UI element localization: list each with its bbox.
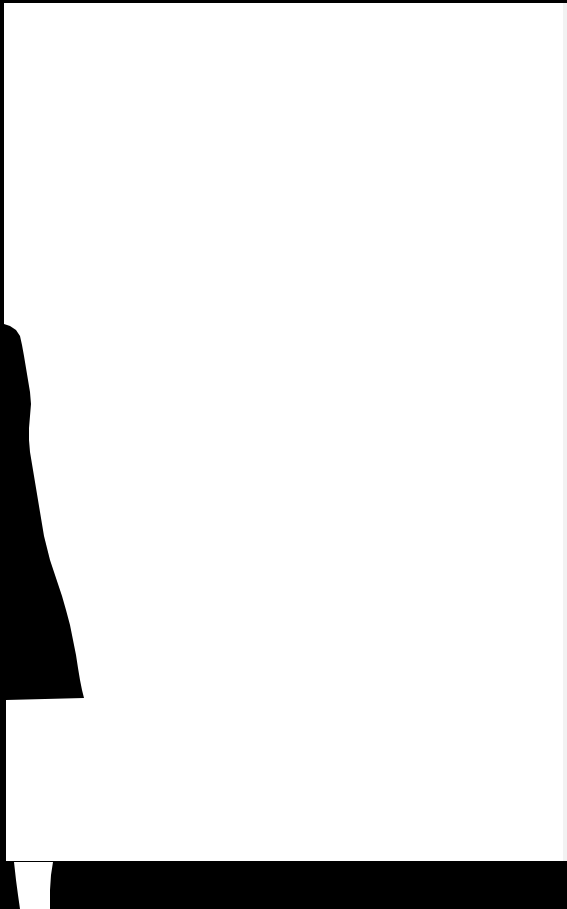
left-edge-strip: [0, 0, 4, 325]
paper-sliver-bottom: [14, 862, 53, 909]
right-edge-shadow: [563, 3, 567, 861]
paper-sheet-main: [4, 3, 567, 861]
scan-canvas: [0, 0, 567, 909]
scanned-document: [0, 0, 567, 909]
